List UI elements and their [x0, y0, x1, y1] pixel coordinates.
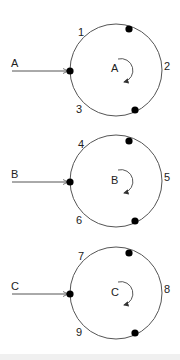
- center-label-c: C: [111, 286, 119, 298]
- arc-label-3: 3: [76, 103, 82, 115]
- arc-label-5: 5: [164, 171, 170, 183]
- node-c-top: [125, 249, 132, 256]
- bottom-strip: [0, 354, 180, 360]
- arc-label-1: 1: [78, 26, 84, 38]
- node-c-left: [66, 290, 73, 297]
- rotation-arrow-icon: [118, 282, 133, 305]
- node-a-top: [125, 25, 132, 32]
- arc-label-9: 9: [76, 326, 82, 338]
- unit-b: B 4 5 6 B: [11, 135, 170, 227]
- node-b-bottom: [131, 217, 138, 224]
- input-label-b: B: [11, 168, 18, 180]
- unit-c: C 7 8 9 C: [11, 247, 170, 339]
- center-label-a: A: [111, 62, 119, 74]
- arc-label-2: 2: [164, 60, 170, 72]
- input-label-c: C: [11, 280, 19, 292]
- arc-label-4: 4: [78, 138, 84, 150]
- arc-label-6: 6: [76, 214, 82, 226]
- arc-label-8: 8: [164, 283, 170, 295]
- unit-a: A 1 2 3 A: [11, 24, 170, 116]
- arc-label-7: 7: [78, 250, 84, 262]
- center-label-b: B: [111, 174, 118, 186]
- node-a-left: [66, 67, 73, 74]
- diagram-canvas: A 1 2 3 A B 4 5 6 B C 7 8 9 C: [0, 0, 180, 360]
- rotation-arrow-icon: [118, 170, 133, 193]
- node-a-bottom: [131, 106, 138, 113]
- input-label-a: A: [11, 57, 19, 69]
- rotation-arrow-icon: [118, 59, 133, 82]
- node-b-top: [125, 137, 132, 144]
- node-b-left: [66, 178, 73, 185]
- node-c-bottom: [131, 329, 138, 336]
